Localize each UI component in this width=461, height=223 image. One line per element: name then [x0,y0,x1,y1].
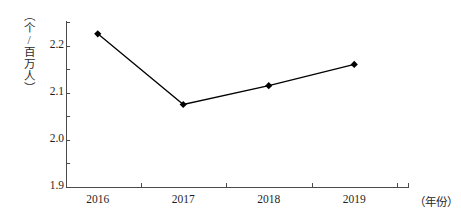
series-line [98,34,355,105]
data-point-marker [265,82,272,89]
line-chart: （个/百万人） 2.22.12.01.91.81.71.61.5 2016201… [0,0,461,223]
data-point-marker [351,61,358,68]
series-plot-area [0,0,461,223]
x-axis-unit-label: （年份） [414,193,458,209]
